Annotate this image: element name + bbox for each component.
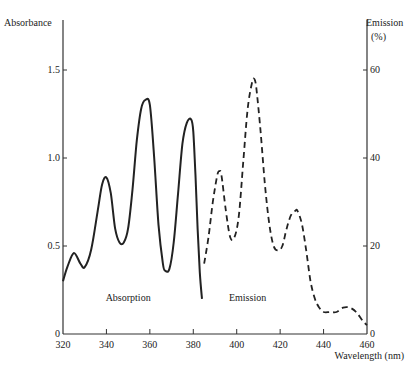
y-left-tick-label: 1.0	[48, 152, 61, 163]
y-left-tick-label: 0	[55, 328, 60, 339]
emission-annotation: Emission	[229, 292, 266, 303]
x-tick-label: 340	[99, 339, 114, 350]
x-tick-label: 320	[56, 339, 71, 350]
y-right-tick-label: 60	[370, 64, 380, 75]
series	[63, 78, 367, 325]
chart: 32034036038040042044046000.51.01.5020406…	[0, 0, 408, 379]
y-right-tick-label: 0	[370, 328, 375, 339]
right-axis-label-line2: (%)	[371, 31, 386, 43]
y-right-tick-label: 20	[370, 240, 380, 251]
x-tick-label: 440	[316, 339, 331, 350]
x-tick-label: 420	[273, 339, 288, 350]
x-axis-label: Wavelength (nm)	[335, 350, 404, 362]
left-axis-label: Absorbance	[4, 17, 52, 28]
x-tick-label: 360	[142, 339, 157, 350]
axes	[63, 20, 367, 334]
x-tick-label: 380	[186, 339, 201, 350]
absorption-annotation: Absorption	[106, 292, 151, 303]
y-left-tick-label: 0.5	[48, 240, 61, 251]
x-tick-label: 400	[229, 339, 244, 350]
y-right-tick-label: 40	[370, 152, 380, 163]
right-axis-label-line1: Emission	[366, 17, 403, 28]
emission-series-line	[204, 78, 367, 325]
y-left-tick-label: 1.5	[48, 64, 61, 75]
absorption-series-line	[63, 99, 202, 299]
x-tick-label: 460	[360, 339, 375, 350]
